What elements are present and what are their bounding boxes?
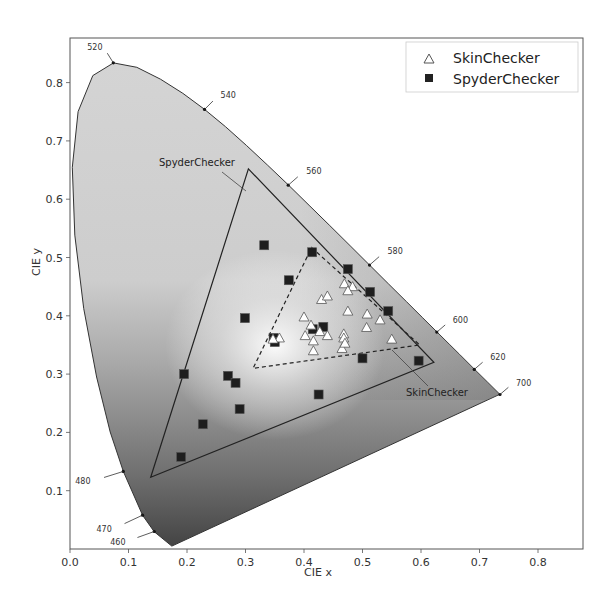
spyderchecker-point [231, 378, 240, 387]
wavelength-label: 580 [388, 247, 403, 256]
x-tick-label: 0.3 [237, 556, 255, 569]
square-marker-icon [425, 74, 433, 82]
y-tick-label: 0.3 [46, 368, 64, 381]
wavelength-label: 560 [306, 167, 321, 176]
spyderchecker-point [414, 356, 423, 365]
legend-label-skinchecker: SkinChecker [453, 50, 540, 66]
spyderchecker-point [343, 265, 352, 274]
annotation-spyderchecker-text: SpyderChecker [159, 157, 236, 168]
wavelength-label: 480 [75, 477, 90, 486]
spyderchecker-point [384, 307, 393, 316]
x-tick-label: 0.6 [412, 556, 430, 569]
legend-label-spyderchecker: SpyderChecker [453, 71, 559, 87]
y-tick-label: 0.1 [46, 485, 64, 498]
x-tick-label: 0.1 [120, 556, 138, 569]
spyderchecker-point [308, 248, 317, 257]
wavelength-label: 520 [87, 43, 102, 52]
x-tick-label: 0.7 [471, 556, 489, 569]
wavelength-label: 470 [97, 525, 112, 534]
x-tick-label: 0.5 [354, 556, 372, 569]
cie-chromaticity-chart: 460470480520540560580600620700 SpyderChe… [0, 0, 616, 603]
x-tick-label: 0.0 [61, 556, 79, 569]
spyderchecker-point [235, 405, 244, 414]
spyderchecker-point [314, 390, 323, 399]
y-tick-label: 0.4 [46, 310, 64, 323]
spyderchecker-point [180, 370, 189, 379]
spyderchecker-point [260, 241, 269, 250]
x-tick-label: 0.2 [178, 556, 196, 569]
y-tick-label: 0.6 [46, 193, 64, 206]
spyderchecker-point [240, 314, 249, 323]
y-tick-label: 0.5 [46, 252, 64, 265]
spyderchecker-point [198, 420, 207, 429]
x-tick-label: 0.8 [529, 556, 547, 569]
x-axis-label: CIE x [304, 566, 332, 579]
spyderchecker-point [358, 354, 367, 363]
y-axis-ticks: 0.10.20.30.40.50.60.70.8 [46, 77, 71, 498]
legend: SkinChecker SpyderChecker [406, 42, 578, 92]
annotation-skinchecker-text: SkinChecker [406, 387, 469, 398]
y-axis-label: CIE y [30, 248, 43, 276]
wavelength-label: 620 [490, 353, 505, 362]
wavelength-label: 460 [110, 538, 125, 547]
y-tick-label: 0.8 [46, 77, 64, 90]
spyderchecker-point [177, 452, 186, 461]
spyderchecker-point [366, 287, 375, 296]
y-tick-label: 0.7 [46, 135, 64, 148]
wavelength-label: 540 [221, 91, 236, 100]
spyderchecker-point [284, 276, 293, 285]
wavelength-label: 600 [453, 316, 468, 325]
y-tick-label: 0.2 [46, 426, 64, 439]
wavelength-label: 700 [516, 379, 531, 388]
